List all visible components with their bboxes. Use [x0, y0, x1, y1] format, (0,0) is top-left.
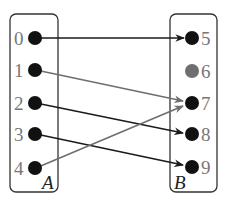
label-6: 6 [201, 61, 211, 82]
label-3: 3 [14, 124, 24, 145]
set-b-name: B [174, 172, 186, 193]
label-7: 7 [201, 93, 211, 114]
dot-0 [28, 31, 42, 45]
mapping-diagram: 0 1 2 3 4 A 5 6 7 8 9 B [0, 0, 230, 215]
set-a-dots [28, 31, 42, 175]
label-2: 2 [14, 93, 24, 114]
dot-8 [185, 127, 199, 141]
dot-4 [28, 161, 42, 175]
set-b-dots [185, 31, 199, 174]
label-1: 1 [14, 60, 24, 81]
dot-9 [185, 160, 199, 174]
label-0: 0 [14, 28, 24, 49]
label-4: 4 [14, 158, 24, 179]
set-a-name: A [40, 172, 54, 193]
dot-5 [185, 31, 199, 45]
label-8: 8 [201, 124, 211, 145]
dot-1 [28, 63, 42, 77]
dot-6 [185, 64, 199, 78]
label-5: 5 [201, 28, 211, 49]
dot-3 [28, 127, 42, 141]
dot-2 [28, 96, 42, 110]
label-9: 9 [201, 157, 211, 178]
dot-7 [185, 96, 199, 110]
